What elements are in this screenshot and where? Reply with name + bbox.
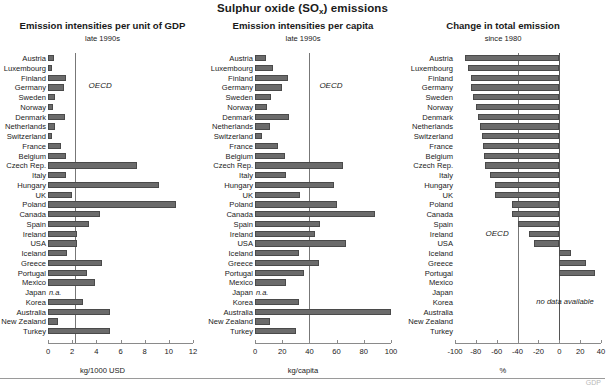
bar — [48, 250, 67, 256]
category-label: UK — [35, 192, 46, 200]
category-label: Finland — [21, 75, 46, 83]
footer-smudge-text: GDP — [586, 379, 601, 386]
bar — [255, 133, 262, 139]
category-label: Czech Rep. — [413, 162, 453, 170]
bar — [468, 65, 560, 71]
x-axis-tick — [601, 340, 602, 343]
x-axis-tick-label: 12 — [179, 347, 207, 356]
x-axis-tick — [309, 340, 310, 343]
category-label: USA — [237, 240, 253, 248]
bars-change: OECDno data available — [455, 53, 601, 343]
category-label: New Zealand — [1, 318, 46, 326]
bar — [48, 182, 159, 188]
category-label: Korea — [26, 299, 46, 307]
category-label: New Zealand — [408, 318, 453, 326]
category-label: Spain — [234, 221, 253, 229]
bar — [255, 328, 296, 334]
bar — [559, 250, 570, 256]
bar — [48, 55, 54, 61]
bar — [255, 55, 266, 61]
x-axis-tick — [72, 340, 73, 343]
bar — [255, 279, 286, 285]
panel-emission-intensity-capita: Emission intensities per capita late 199… — [205, 20, 401, 387]
bar — [495, 192, 560, 198]
category-label: Turkey — [430, 328, 453, 336]
bar — [48, 162, 137, 168]
category-label: Hungary — [424, 182, 453, 190]
category-label: USA — [30, 240, 46, 248]
bar — [48, 328, 110, 334]
bar — [48, 299, 83, 305]
category-label: Hungary — [17, 182, 46, 190]
oecd-reference-label: OECD — [89, 81, 112, 90]
x-axis-tick — [497, 340, 498, 343]
category-label: Netherlands — [412, 123, 453, 131]
bar — [48, 318, 58, 324]
bar — [48, 309, 110, 315]
category-label: Poland — [229, 201, 253, 209]
plot-area-change: AustriaLuxembourgFinlandGermanySwedenNor… — [401, 53, 605, 349]
bar — [255, 114, 289, 120]
category-label: Czech Rep. — [6, 162, 46, 170]
bar — [48, 279, 95, 285]
category-label: Iceland — [229, 250, 254, 258]
category-label: France — [22, 143, 46, 151]
category-label: New Zealand — [208, 318, 253, 326]
category-label: Germany — [15, 84, 46, 92]
bar — [512, 201, 559, 207]
category-label: Turkey — [230, 328, 253, 336]
category-label: Australia — [423, 309, 453, 317]
bar — [473, 94, 560, 100]
category-labels-gdp: AustriaLuxembourgFinlandGermanySwedenNor… — [0, 53, 48, 343]
bar — [48, 133, 52, 139]
bar — [48, 153, 66, 159]
bar — [255, 221, 320, 227]
category-label: Denmark — [422, 114, 453, 122]
category-label: Iceland — [22, 250, 47, 258]
category-label: Poland — [429, 201, 453, 209]
category-label: Belgium — [426, 153, 453, 161]
not-available-text: n.a. — [49, 288, 61, 297]
category-label: Norway — [20, 104, 46, 112]
bar — [255, 84, 282, 90]
x-axis-tick — [538, 340, 539, 343]
oecd-reference-line — [309, 53, 310, 343]
bar — [512, 211, 559, 217]
category-label: Hungary — [224, 182, 253, 190]
bar — [529, 231, 559, 237]
category-label: UK — [442, 192, 453, 200]
x-axis-tick — [559, 340, 560, 343]
bar — [490, 172, 559, 178]
category-label: Canada — [226, 211, 253, 219]
bar — [255, 201, 337, 207]
bar — [480, 123, 559, 129]
bar — [255, 260, 319, 266]
bar — [478, 114, 559, 120]
bar — [255, 162, 343, 168]
bar — [48, 270, 87, 276]
x-axis-tick — [96, 340, 97, 343]
bar — [48, 260, 102, 266]
x-axis-tick — [391, 340, 392, 343]
bars-gdp: OECDn.a. — [48, 53, 193, 343]
category-label: Japan — [432, 289, 453, 297]
bar — [255, 182, 334, 188]
category-labels-change: AustriaLuxembourgFinlandGermanySwedenNor… — [401, 53, 455, 343]
x-axis-tick — [518, 340, 519, 343]
main-title-prefix: Sulphur oxide (SO — [217, 2, 319, 14]
x-axis-line — [455, 343, 601, 344]
category-label: Canada — [426, 211, 453, 219]
plot-area-gdp: AustriaLuxembourgFinlandGermanySwedenNor… — [0, 53, 205, 349]
bar — [48, 65, 52, 71]
x-axis-title-change: % — [401, 366, 605, 375]
bar — [48, 75, 66, 81]
x-axis-tick-label: 40 — [587, 347, 610, 356]
category-label: Portugal — [425, 270, 453, 278]
bar — [465, 55, 559, 61]
bars-capita: OECDn.a. — [255, 53, 391, 343]
category-label: USA — [437, 240, 453, 248]
category-label: Poland — [22, 201, 46, 209]
category-label: Norway — [227, 104, 253, 112]
bar — [48, 240, 77, 246]
category-labels-capita: AustriaLuxembourgFinlandGermanySwedenNor… — [205, 53, 255, 343]
